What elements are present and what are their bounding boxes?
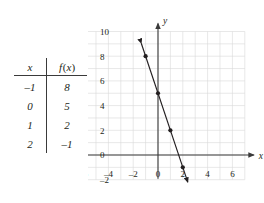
table-row: 1 2 xyxy=(14,115,87,134)
line-series xyxy=(141,43,188,182)
cell-fx: 8 xyxy=(47,77,88,96)
cell-x: 1 xyxy=(14,115,47,134)
x-tick-label: 0 xyxy=(156,169,161,179)
y-tick-label: 8 xyxy=(100,52,105,62)
x-axis-label: x xyxy=(258,151,264,161)
x-tick-label: –2 xyxy=(128,169,138,179)
cell-fx: 2 xyxy=(47,115,88,134)
x-tick-label: 6 xyxy=(230,169,235,179)
data-point xyxy=(144,54,148,58)
figure-container: x f (x) –1 8 0 5 1 xyxy=(0,0,264,203)
fx-label-close-paren: ) xyxy=(71,61,75,73)
table-row: 0 5 xyxy=(14,96,87,115)
column-header-x: x xyxy=(14,58,47,76)
cell-x: –1 xyxy=(14,77,47,96)
cell-fx: 5 xyxy=(47,96,88,115)
coordinate-plane: –6–4–202461086420–2 x y xyxy=(88,6,264,203)
y-tick-label: 2 xyxy=(100,126,105,136)
y-tick-label: 0 xyxy=(100,150,105,160)
data-point xyxy=(168,128,172,132)
cell-x: 0 xyxy=(14,96,47,115)
graph-svg: –6–4–202461086420–2 x y xyxy=(88,6,264,203)
table-header-row: x f (x) xyxy=(14,58,87,76)
column-header-fx: f (x) xyxy=(47,58,88,76)
value-table: x f (x) –1 8 0 5 1 xyxy=(14,58,88,153)
table: x f (x) –1 8 0 5 1 xyxy=(14,58,87,153)
table-row: 2 –1 xyxy=(14,134,87,153)
y-tick-label: 4 xyxy=(100,101,105,111)
data-point xyxy=(156,91,160,95)
y-tick-label: –2 xyxy=(99,175,109,185)
table-row: –1 8 xyxy=(14,77,87,96)
axes xyxy=(88,24,254,179)
x-tick-label: 4 xyxy=(205,169,210,179)
y-axis-label: y xyxy=(162,16,168,26)
gridlines xyxy=(88,32,245,180)
cell-x: 2 xyxy=(14,134,47,153)
data-point xyxy=(181,165,185,169)
y-tick-label: 6 xyxy=(100,76,105,86)
x-tick-label: –6 xyxy=(88,169,89,179)
cell-fx: –1 xyxy=(47,134,88,153)
y-tick-label: 10 xyxy=(100,27,110,37)
function-line xyxy=(141,43,188,182)
